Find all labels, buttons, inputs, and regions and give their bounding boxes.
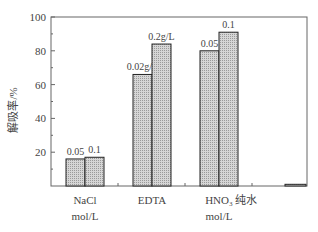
bar-value-label: 0.1 [88, 144, 101, 155]
bar-value-label: 0.05 [201, 38, 219, 49]
category-label: EDTA [138, 194, 167, 206]
bar [85, 157, 104, 186]
bar [133, 74, 152, 186]
bar [285, 184, 306, 186]
bar [200, 51, 219, 186]
bar [66, 159, 85, 186]
bar [152, 44, 171, 186]
category-unit-label: mol/L [206, 210, 233, 222]
y-tick-label: 20 [35, 146, 47, 158]
bar-value-label: 0.2g/L [148, 31, 174, 42]
category-unit-label: mol/L [72, 210, 99, 222]
bar-value-label: 0.1 [222, 19, 235, 30]
category-label: NaCl [73, 194, 96, 206]
y-tick-label: 80 [35, 45, 47, 57]
y-tick-label: 100 [30, 11, 47, 23]
bars: 0.050.10.02g/L0.2g/L0.050.1 [66, 19, 306, 186]
y-axis-label: 解吸率/% [6, 87, 19, 132]
y-tick-label: 60 [35, 79, 47, 91]
category-label: 纯水 [235, 194, 257, 206]
bar-value-label: 0.05 [67, 146, 85, 157]
bar-chart: 20406080100 0.050.10.02g/L0.2g/L0.050.1 … [0, 0, 318, 232]
y-tick-label: 40 [35, 112, 47, 124]
category-label: HNO₃ [205, 194, 233, 206]
x-axis: NaClmol/LEDTAHNO₃mol/L纯水 [72, 183, 257, 222]
bar [219, 32, 238, 186]
